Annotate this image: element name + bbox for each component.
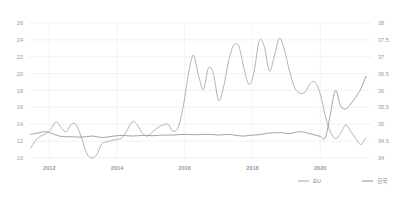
y-axis-right-tick-label: 38: [378, 20, 384, 26]
x-axis-tick-label: 2018: [246, 165, 258, 171]
y-axis-right-tick-label: 37: [378, 54, 384, 60]
legend-label-한국: 한국: [377, 178, 388, 185]
chart-plot-area: 1012141618202224263434.53535.53636.53737…: [0, 0, 411, 197]
y-axis-right-tick-label: 37.5: [378, 37, 389, 43]
legend-label-EU: EU: [313, 178, 321, 184]
series-line-EU: [31, 38, 366, 158]
y-axis-right-tick-label: 35.5: [378, 104, 389, 110]
x-axis-tick-label: 2014: [111, 165, 124, 171]
x-axis-tick-label: 2020: [314, 165, 326, 171]
y-axis-right-tick-label: 34.5: [378, 138, 389, 144]
y-axis-left-tick-label: 22: [17, 54, 23, 60]
y-axis-left-tick-label: 14: [17, 121, 23, 127]
y-axis-left-tick-label: 12: [17, 138, 23, 144]
y-axis-right-tick-label: 36.5: [378, 71, 389, 77]
y-axis-right-tick-label: 35: [378, 121, 384, 127]
y-axis-left-tick-label: 20: [17, 71, 23, 77]
y-axis-right-tick-label: 36: [378, 88, 384, 94]
y-axis-left-tick-label: 16: [17, 104, 23, 110]
y-axis-right-tick-label: 34: [378, 155, 384, 161]
line-chart: 1012141618202224263434.53535.53636.53737…: [0, 0, 411, 197]
chart-container: 1012141618202224263434.53535.53636.53737…: [0, 0, 411, 197]
x-axis-tick-label: 2016: [179, 165, 191, 171]
y-axis-left-tick-label: 10: [17, 155, 23, 161]
y-axis-left-tick-label: 18: [17, 88, 23, 94]
series-line-한국: [31, 76, 366, 139]
y-axis-left-tick-label: 24: [17, 37, 23, 43]
y-axis-left-tick-label: 26: [17, 20, 23, 26]
x-axis-tick-label: 2012: [43, 165, 55, 171]
